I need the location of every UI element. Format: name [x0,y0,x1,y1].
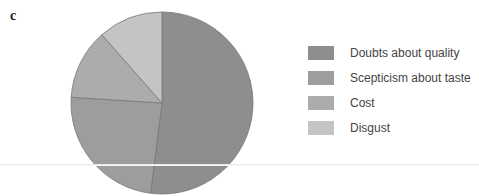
legend-swatch [308,121,334,135]
legend-item-disgust: Disgust [308,115,471,140]
legend-item-cost: Cost [308,90,471,115]
pie-slice-scepticism-about-taste [71,97,162,193]
legend-item-scepticism-about-taste: Scepticism about taste [308,65,471,90]
legend-swatch [308,46,334,60]
legend-item-doubts-about-quality: Doubts about quality [308,40,471,65]
page-fold-line [0,164,479,166]
legend-label: Scepticism about taste [350,71,471,85]
legend-label: Cost [350,96,375,110]
legend-swatch [308,96,334,110]
legend-label: Disgust [350,121,390,135]
pie-slice-doubts-about-quality [151,12,253,194]
legend-swatch [308,71,334,85]
legend: Doubts about quality Scepticism about ta… [308,40,471,140]
legend-label: Doubts about quality [350,46,459,60]
